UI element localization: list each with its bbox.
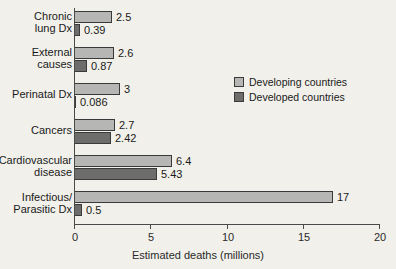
bar-value-developing-cancers: 2.7 bbox=[119, 119, 134, 131]
bar-developing-cancers bbox=[74, 119, 115, 131]
chart-legend: Developing countries Developed countries bbox=[234, 76, 347, 106]
y-axis-line bbox=[74, 8, 75, 224]
bar-developed-cardiovascular-disease bbox=[74, 168, 157, 180]
category-label-external-causes: External causes bbox=[32, 47, 72, 70]
legend-item-developed: Developed countries bbox=[234, 91, 347, 103]
bar-developing-perinatal-dx bbox=[74, 83, 120, 95]
bar-value-developed-infectious-parasitic-dx: 0.5 bbox=[86, 204, 101, 216]
bar-value-developed-cancers: 2.42 bbox=[115, 132, 136, 144]
legend-label-developing: Developing countries bbox=[249, 76, 347, 88]
category-label-infectious-parasitic-dx: Infectious/ Parasitic Dx bbox=[13, 192, 72, 215]
bar-value-developing-perinatal-dx: 3 bbox=[124, 83, 130, 95]
legend-item-developing: Developing countries bbox=[234, 76, 347, 88]
bar-developing-chronic-lung-dx bbox=[74, 11, 112, 23]
bar-developed-cancers bbox=[74, 132, 111, 144]
category-label-cancers: Cancers bbox=[31, 125, 72, 137]
x-axis-tick-15 bbox=[303, 224, 304, 229]
legend-label-developed: Developed countries bbox=[249, 91, 345, 103]
bar-value-developed-external-causes: 0.87 bbox=[91, 60, 112, 72]
x-axis-tick-5 bbox=[150, 224, 151, 229]
x-axis-tick-label-0: 0 bbox=[72, 231, 78, 243]
x-axis-tick-label-20: 20 bbox=[374, 231, 386, 243]
bar-value-developed-chronic-lung-dx: 0.39 bbox=[84, 24, 105, 36]
bar-developed-infectious-parasitic-dx bbox=[74, 204, 82, 216]
legend-swatch-icon-developed bbox=[234, 92, 244, 102]
legend-swatch-icon-developing bbox=[234, 77, 244, 87]
bar-developed-external-causes bbox=[74, 60, 87, 72]
category-label-cardiovascular-disease: Cardiovascular disease bbox=[0, 155, 72, 178]
bar-developing-cardiovascular-disease bbox=[74, 155, 172, 167]
x-axis-tick-label-10: 10 bbox=[222, 231, 234, 243]
category-label-chronic-lung-dx: Chronic lung Dx bbox=[34, 11, 72, 34]
bar-value-developing-cardiovascular-disease: 6.4 bbox=[176, 155, 191, 167]
x-axis-tick-label-5: 5 bbox=[148, 231, 154, 243]
bar-developing-infectious-parasitic-dx bbox=[74, 191, 333, 203]
x-axis-tick-label-15: 15 bbox=[298, 231, 310, 243]
x-axis-title: Estimated deaths (millions) bbox=[0, 249, 396, 261]
category-label-perinatal-dx: Perinatal Dx bbox=[12, 89, 72, 101]
bar-value-developing-chronic-lung-dx: 2.5 bbox=[116, 11, 131, 23]
bar-value-developed-cardiovascular-disease: 5.43 bbox=[161, 168, 182, 180]
bar-value-developing-external-causes: 2.6 bbox=[118, 47, 133, 59]
bar-value-developed-perinatal-dx: 0.086 bbox=[80, 96, 108, 108]
bar-chart: Chronic lung Dx External causes Perinata… bbox=[0, 0, 396, 269]
x-axis-tick-20 bbox=[379, 224, 380, 229]
x-axis-tick-0 bbox=[74, 224, 75, 229]
bar-value-developing-infectious-parasitic-dx: 17 bbox=[337, 191, 349, 203]
plot-area: 2.5 0.39 2.6 0.87 3 0.086 2.7 2.42 bbox=[74, 8, 379, 224]
bar-developing-external-causes bbox=[74, 47, 114, 59]
x-axis-tick-10 bbox=[227, 224, 228, 229]
